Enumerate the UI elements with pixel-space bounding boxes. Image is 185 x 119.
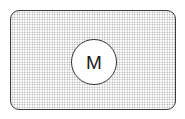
m-node-circle: M <box>71 39 117 85</box>
node-label: M <box>86 53 102 72</box>
